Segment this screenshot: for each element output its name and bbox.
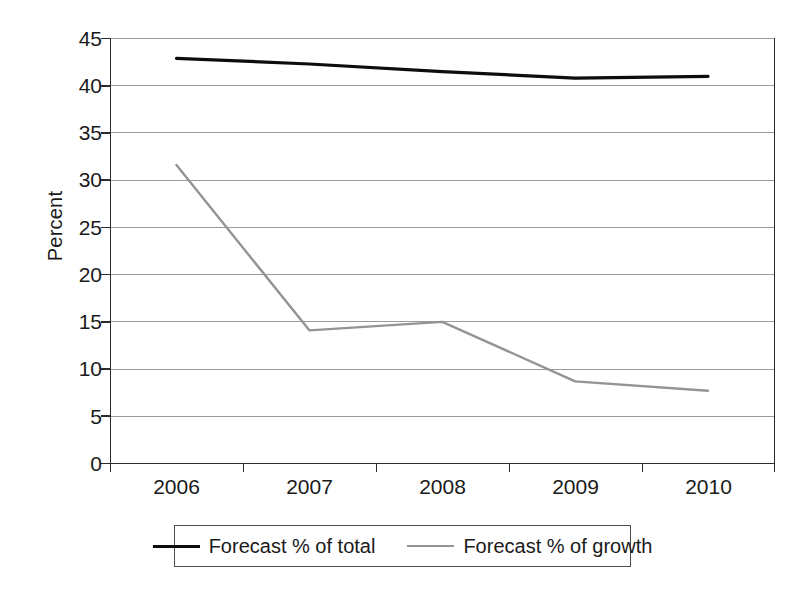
x-tick-label: 2009 (509, 474, 642, 504)
legend-label: Forecast % of total (209, 536, 376, 556)
series-line-forecast-pct-of-growth (176, 165, 708, 391)
legend-entry-forecast-pct-of-total[interactable]: Forecast % of total (153, 536, 376, 556)
line-swatch-gray-icon (407, 545, 454, 547)
y-axis-ticks (101, 39, 110, 464)
x-axis-tick-labels: 2006 2007 2008 2009 2010 (110, 474, 775, 504)
legend-label: Forecast % of growth (463, 536, 652, 556)
x-tick-label: 2006 (110, 474, 243, 504)
legend-entry-forecast-pct-of-growth[interactable]: Forecast % of growth (407, 536, 652, 556)
chart-legend: Forecast % of total Forecast % of growth (174, 525, 631, 567)
x-tick-label: 2010 (642, 474, 775, 504)
line-chart: Percent 45 40 35 30 25 20 15 10 5 0 (0, 0, 810, 600)
gridlines (110, 39, 775, 417)
plot-area (0, 0, 810, 600)
series-line-forecast-pct-of-total (176, 58, 708, 78)
line-swatch-black-icon (153, 545, 200, 548)
x-tick-label: 2007 (243, 474, 376, 504)
x-tick-label: 2008 (376, 474, 509, 504)
